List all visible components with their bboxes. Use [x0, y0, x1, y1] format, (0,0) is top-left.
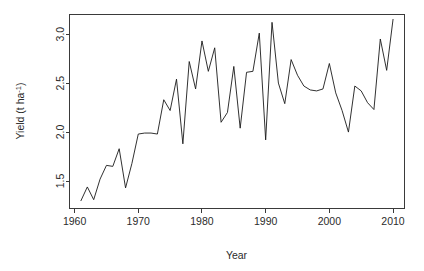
y-tick-label-2.0: 2.0: [54, 125, 66, 140]
y-axis-title-superscript: -1: [14, 86, 23, 93]
y-tick-label-3.0: 3.0: [54, 27, 66, 42]
x-tick-label-1960: 1960: [63, 215, 87, 227]
x-axis-title: Year: [226, 249, 248, 261]
y-axis-title-main: Yield (t ha: [14, 92, 26, 139]
y-axis-tick-labels: 1.52.02.53.0: [54, 27, 66, 189]
x-axis-ticks: [75, 209, 393, 213]
y-axis-title-tail: ): [14, 82, 26, 86]
plot-panel-border: [70, 15, 405, 209]
y-tick-label-1.5: 1.5: [54, 174, 66, 189]
y-axis-ticks: [66, 34, 70, 181]
x-tick-label-2010: 2010: [381, 215, 405, 227]
y-axis-title: Yield (t ha-1): [14, 82, 26, 139]
x-tick-label-1970: 1970: [127, 215, 151, 227]
x-tick-label-1980: 1980: [190, 215, 214, 227]
x-tick-label-2000: 2000: [318, 215, 342, 227]
chart-figure: 1.52.02.53.0 196019701980199020002010 Ye…: [0, 0, 424, 271]
yield-line-chart: 1.52.02.53.0 196019701980199020002010 Ye…: [0, 0, 424, 271]
y-tick-label-2.5: 2.5: [54, 76, 66, 91]
x-axis-tick-labels: 196019701980199020002010: [63, 215, 405, 227]
yield-series-line: [81, 19, 393, 200]
x-tick-label-1990: 1990: [254, 215, 278, 227]
